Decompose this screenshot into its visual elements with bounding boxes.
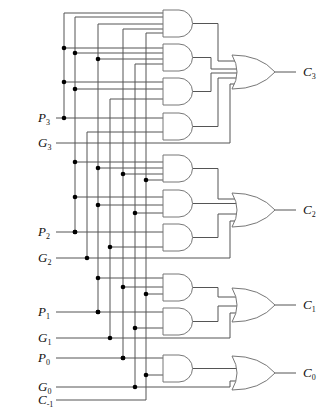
or-input [193, 306, 241, 322]
junction-dot [62, 116, 67, 121]
or-input [193, 288, 239, 298]
junction-dot [73, 195, 78, 200]
junction-dot [96, 276, 101, 281]
junction-dot [144, 292, 149, 297]
input-label-p0: P0 [37, 350, 50, 367]
input-label-g1: G1 [38, 330, 51, 347]
carry-lookahead-diagram: P3 G3 P2 G2 P1 G1 P0 G0 C-1 C3 C2 C1 C0 [0, 0, 325, 420]
and-gate-c3-1 [163, 10, 193, 37]
junction-dot [73, 87, 78, 92]
or-gate-c3 [232, 55, 275, 89]
gates [163, 10, 275, 390]
and-gate-c3-3 [163, 78, 193, 105]
junction-dot [133, 326, 138, 331]
or-input [193, 169, 237, 200]
or-input [193, 58, 241, 70]
or-gate-c0 [232, 356, 275, 390]
or-gate-c2 [232, 193, 275, 227]
junction-dot [121, 285, 126, 290]
or-input [193, 24, 237, 62]
or-input [87, 221, 236, 258]
junction-dot [96, 310, 101, 315]
input-label-p2: P2 [37, 224, 50, 241]
junction-dot [121, 356, 126, 361]
junction-dot [96, 166, 101, 171]
and-gate-c3-2 [163, 44, 193, 71]
and-gate-c2-3 [163, 224, 193, 251]
output-label-c2: C2 [303, 202, 316, 219]
junction-dot [121, 172, 126, 177]
circuit-svg: P3 G3 P2 G2 P1 G1 P0 G0 C-1 C3 C2 C1 C0 [0, 0, 325, 420]
junction-dot [96, 203, 101, 208]
junction-dot [73, 51, 78, 56]
output-label-c3: C3 [303, 64, 316, 81]
input-label-p3: P3 [37, 110, 50, 127]
input-label-g2: G2 [38, 250, 51, 267]
junction-dot [108, 336, 113, 341]
and-gate-c0-1 [163, 355, 193, 382]
junction-dot [62, 46, 67, 51]
or-gate-c1 [232, 288, 275, 322]
and-gate-c1-2 [163, 308, 193, 335]
and-gate-c3-4 [163, 113, 193, 140]
and-gate-c2-2 [163, 190, 193, 217]
and-gate-c2-1 [163, 155, 193, 182]
junction-dot [144, 178, 149, 183]
junction-dot [73, 160, 78, 165]
junction-dot [96, 57, 101, 62]
and-gate-c1-1 [163, 274, 193, 301]
input-label-p1: P1 [37, 304, 50, 321]
junction-dot [85, 256, 90, 261]
junction-dot [133, 385, 138, 390]
output-label-c1: C1 [303, 297, 316, 314]
input-label-g3: G3 [38, 135, 51, 152]
junction-dot [144, 373, 149, 378]
output-label-c0: C0 [303, 365, 316, 382]
junction-dot [73, 230, 78, 235]
junction-dot [108, 245, 113, 250]
or-input [135, 381, 236, 387]
or-input [193, 78, 239, 127]
junction-dot [133, 211, 138, 216]
junction-dot [62, 80, 67, 85]
